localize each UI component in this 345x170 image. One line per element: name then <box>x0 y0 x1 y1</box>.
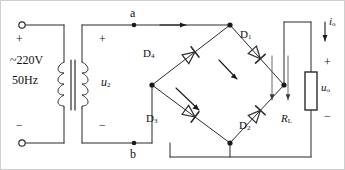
bridge-edge-d1 <box>230 25 284 85</box>
node-dot-a <box>132 23 137 28</box>
source-frequency-label: 50Hz <box>12 74 38 86</box>
output-minus-label: − <box>324 110 331 122</box>
current-arrow-load-a <box>270 56 275 100</box>
diode-label-d1: D1 <box>240 29 251 41</box>
source-voltage-label: ~220V <box>10 54 43 66</box>
transformer-secondary-winding <box>82 62 88 108</box>
secondary-plus-label: + <box>99 33 106 45</box>
secondary-voltage-label: u2 <box>101 76 111 89</box>
output-plus-label: + <box>324 56 331 68</box>
node-dot-bridge-right <box>281 82 286 87</box>
input-terminal-top <box>19 22 25 28</box>
current-arrow-top-rail <box>160 22 186 27</box>
diagram-border <box>1 1 345 170</box>
diode-label-d3: D3 <box>146 113 157 125</box>
node-dot-bridge-left <box>149 82 154 87</box>
output-voltage-label: uo <box>321 82 330 94</box>
node-dot-b <box>132 141 137 146</box>
node-label-b: b <box>130 148 136 160</box>
transformer-primary-winding <box>58 62 64 108</box>
load-resistor-label: RL <box>281 113 292 125</box>
circuit-diagram: + ~220V 50Hz − a b + − u2 D4 D1 D3 D2 RL… <box>0 0 345 170</box>
load-resistor-body <box>305 72 317 110</box>
source-minus-label: − <box>16 119 23 131</box>
source-plus-label: + <box>16 33 23 45</box>
diode-label-d4: D4 <box>143 48 154 60</box>
bridge-edge-d3 <box>152 85 230 143</box>
input-terminal-bottom <box>19 140 25 146</box>
current-arrow-output <box>323 22 328 41</box>
output-current-label: io <box>329 16 336 28</box>
circuit-schematic-svg <box>0 0 345 170</box>
diode-label-d2: D2 <box>239 120 250 132</box>
node-label-a: a <box>130 7 135 19</box>
secondary-minus-label: − <box>99 119 106 131</box>
node-dot-bridge-bottom <box>227 140 232 145</box>
current-arrow-load-b <box>286 56 291 100</box>
bridge-edge-d2 <box>230 85 284 143</box>
bridge-edge-d4 <box>152 25 230 85</box>
current-arrow-bridge-upper <box>219 60 237 79</box>
node-dot-bridge-top <box>227 22 232 27</box>
